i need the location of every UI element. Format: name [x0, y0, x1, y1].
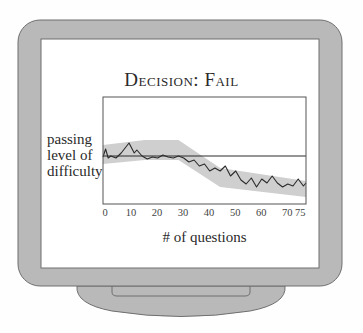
x-tick-label: 10: [126, 207, 137, 218]
x-tick-label: 60: [256, 207, 267, 218]
monitor-stand-base: [77, 286, 285, 317]
x-tick-label: 0: [102, 207, 107, 218]
y-axis-label: passing level of difficulty: [47, 131, 103, 179]
computer-monitor-illustration: Decision: Fail passing level of difficul…: [0, 0, 363, 333]
chart-title: Decision: Fail: [0, 69, 363, 91]
x-axis-label: # of questions: [103, 229, 306, 246]
x-tick-label: 20: [152, 207, 163, 218]
x-tick-label: 70: [282, 207, 293, 218]
x-tick-label: 30: [178, 207, 189, 218]
x-tick-label: 50: [230, 207, 241, 218]
x-tick-label: 75: [295, 207, 306, 218]
x-axis-ticks: 01020304050607075: [0, 207, 363, 221]
x-tick-label: 40: [204, 207, 215, 218]
